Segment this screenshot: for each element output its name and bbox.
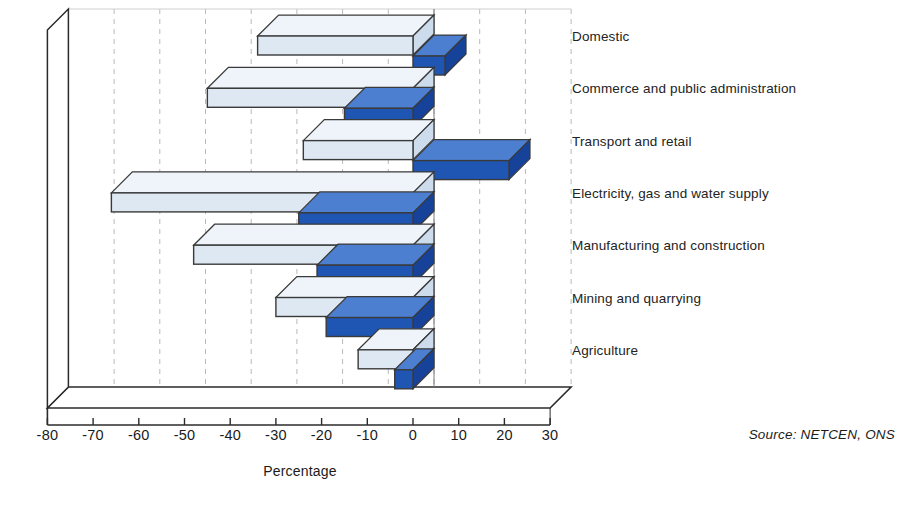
x-tick-label-10: 10	[450, 427, 467, 443]
x-tick-label--40: -40	[219, 427, 241, 443]
bar-back-0-top-face	[258, 15, 434, 36]
x-axis-title: Percentage	[0, 463, 600, 479]
category-label-3: Electricity, gas and water supply	[572, 186, 769, 202]
x-tick-label--10: -10	[357, 427, 379, 443]
bar-back-1-top-face	[207, 67, 434, 88]
category-label-list: Domestic Commerce and public administrat…	[572, 0, 913, 430]
chart-root: Domestic Commerce and public administrat…	[0, 0, 913, 520]
category-label-5: Mining and quarrying	[572, 291, 701, 307]
bar-back-2-front-face	[303, 141, 413, 160]
bar-back-3-top-face	[111, 172, 434, 193]
bar-back-0	[258, 15, 434, 55]
bar-back-4-top-face	[194, 224, 434, 245]
category-label-0: Domestic	[572, 29, 629, 45]
bar-back-2	[303, 120, 434, 160]
source-note: Source: NETCEN, ONS	[749, 427, 895, 442]
x-tick-label--60: -60	[128, 427, 150, 443]
bar-front-6-front-face	[395, 370, 413, 389]
category-label-6: Agriculture	[572, 343, 638, 359]
plot-left-wall	[47, 9, 68, 408]
category-label-1: Commerce and public administration	[572, 81, 796, 97]
x-tick-label-0: 0	[409, 427, 417, 443]
x-tick-label--30: -30	[265, 427, 287, 443]
bar-back-0-front-face	[258, 36, 413, 55]
x-tick-label--50: -50	[174, 427, 196, 443]
x-tick-label--20: -20	[311, 427, 333, 443]
category-label-2: Transport and retail	[572, 134, 692, 150]
x-tick-label--80: -80	[37, 427, 59, 443]
bar-front-3-top-face	[299, 192, 434, 213]
x-tick-label--70: -70	[82, 427, 104, 443]
x-axis-tick-labels: -80-70-60-50-40-30-20-100102030	[0, 427, 600, 451]
plot-floor	[47, 387, 571, 408]
bar-back-2-top-face	[303, 120, 434, 141]
bar-back-5-top-face	[276, 277, 434, 298]
x-tick-label-20: 20	[496, 427, 513, 443]
category-label-4: Manufacturing and construction	[572, 238, 765, 254]
x-tick-label-30: 30	[542, 427, 559, 443]
